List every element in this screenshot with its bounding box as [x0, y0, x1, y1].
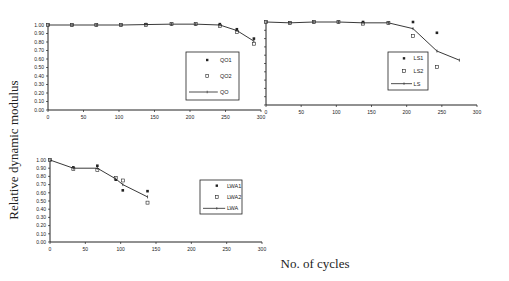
chart-panel-3: 0.000.100.200.300.400.500.600.700.800.90… — [36, 157, 266, 252]
x-tick-label: 150 — [152, 246, 161, 252]
marker-LS2 — [411, 35, 414, 38]
y-tick-label: 0.60 — [34, 56, 44, 62]
marker-LWA2 — [146, 201, 149, 204]
y-axis-title: Relative dynamic modulus — [6, 80, 21, 219]
legend-label: LWA — [227, 205, 239, 211]
x-tick-label: 50 — [81, 114, 87, 120]
legend: LS1LS2LS — [388, 52, 428, 90]
chart-panel-2: 050100150200250300LS1LS2LS — [264, 21, 481, 116]
legend-label: LWA1 — [227, 183, 241, 189]
marker-LWA1 — [121, 189, 124, 192]
x-tick-label: 300 — [473, 109, 482, 115]
y-tick-label: 1.00 — [36, 157, 46, 163]
x-tick-label: 100 — [116, 246, 125, 252]
y-tick-label: 0.20 — [36, 222, 46, 228]
x-tick-label: 300 — [258, 246, 267, 252]
marker-LWA1 — [146, 190, 149, 193]
x-tick-label: 150 — [150, 114, 159, 120]
y-tick-label: 0.80 — [36, 173, 46, 179]
legend-label: LS — [414, 81, 421, 87]
legend-filled-square-icon — [206, 59, 208, 61]
x-tick-label: 200 — [187, 246, 196, 252]
x-tick-label: 0 — [49, 246, 52, 252]
y-tick-label: 0.00 — [36, 239, 46, 245]
y-tick-label: 0.40 — [36, 206, 46, 212]
legend-label: QO1 — [220, 57, 232, 63]
y-tick-label: 0.80 — [34, 39, 44, 45]
legend: LWA1LWA2LWA — [200, 180, 242, 214]
legend: QO1QO2QO — [186, 52, 239, 100]
x-tick-label: 250 — [222, 246, 231, 252]
legend-label: LWA2 — [227, 194, 241, 200]
legend-open-square-icon — [215, 196, 218, 199]
marker-LWA2 — [121, 179, 124, 182]
x-tick-label: 100 — [332, 109, 341, 115]
y-tick-label: 0.90 — [34, 30, 44, 36]
series-line-LWA — [50, 160, 148, 197]
x-tick-label: 50 — [83, 246, 89, 252]
chart-panel-1: 0.000.100.200.300.400.500.600.700.800.90… — [34, 22, 265, 120]
y-tick-label: 0.30 — [36, 214, 46, 220]
y-tick-label: 0.00 — [34, 107, 44, 113]
legend-open-square-icon — [403, 70, 406, 73]
marker-LS2 — [435, 65, 438, 68]
y-tick-label: 0.70 — [36, 181, 46, 187]
x-tick-label: 200 — [186, 114, 195, 120]
figure-canvas: 0.000.100.200.300.400.500.600.700.800.90… — [0, 0, 509, 281]
legend-label: LS1 — [414, 55, 424, 61]
legend-filled-square-icon — [216, 184, 218, 186]
x-axis-title: No. of cycles — [281, 256, 350, 271]
y-tick-label: 0.20 — [34, 90, 44, 96]
y-tick-label: 0.10 — [36, 231, 46, 237]
legend-open-square-icon — [206, 75, 209, 78]
y-tick-label: 0.70 — [34, 47, 44, 53]
y-tick-label: 0.40 — [34, 73, 44, 79]
y-tick-label: 1.00 — [34, 22, 44, 28]
legend-label: QO — [220, 89, 229, 95]
x-tick-label: 0 — [47, 114, 50, 120]
y-tick-label: 0.50 — [36, 198, 46, 204]
x-tick-label: 0 — [265, 109, 268, 115]
x-tick-label: 50 — [298, 109, 304, 115]
x-tick-label: 150 — [367, 109, 376, 115]
legend-label: LS2 — [414, 68, 424, 74]
marker-LS1 — [436, 31, 439, 34]
x-tick-label: 200 — [402, 109, 411, 115]
x-tick-label: 250 — [438, 109, 447, 115]
legend-label: QO2 — [220, 73, 232, 79]
marker-LS1 — [412, 21, 415, 24]
x-tick-label: 250 — [221, 114, 230, 120]
series-line-QO — [48, 24, 254, 41]
y-tick-label: 0.10 — [34, 98, 44, 104]
y-tick-label: 0.30 — [34, 81, 44, 87]
x-tick-label: 100 — [115, 114, 124, 120]
marker-LWA1 — [96, 164, 99, 167]
legend-filled-square-icon — [403, 57, 405, 59]
y-tick-label: 0.50 — [34, 64, 44, 70]
y-tick-label: 0.60 — [36, 190, 46, 196]
marker-QO1 — [253, 37, 256, 40]
y-tick-label: 0.90 — [36, 165, 46, 171]
series-line-LS — [266, 22, 459, 60]
